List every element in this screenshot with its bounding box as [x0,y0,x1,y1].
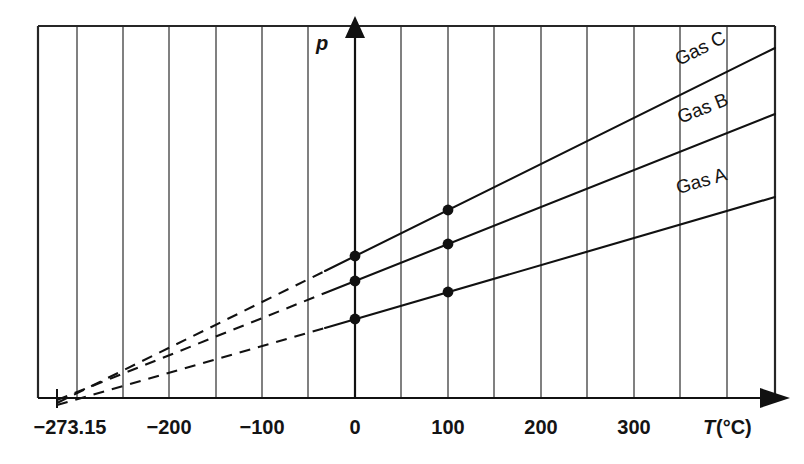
x-axis-title-unit: (°C) [716,416,752,438]
x-tick-labels: −273.15 −200 −100 0 100 200 300 [34,416,651,438]
x-tick-label-1: −200 [146,416,191,438]
y-axis-title: p [315,32,328,54]
x-tick-label-2: −100 [239,416,284,438]
datapoint-gas-b-0 [350,276,361,287]
x-tick-label-5: 200 [524,416,557,438]
x-tick-label-3: 0 [349,416,360,438]
x-tick-label-4: 100 [431,416,464,438]
plot-background [38,26,775,398]
datapoint-gas-a-0 [350,314,361,325]
datapoint-gas-a-100 [443,287,454,298]
x-axis-title: T (°C) [703,416,752,438]
chart-canvas: Gas C Gas B Gas A p T (°C) −273.15 −200 … [0,0,804,464]
datapoint-gas-c-100 [443,205,454,216]
x-tick-label-6: 300 [617,416,650,438]
datapoint-gas-c-0 [350,251,361,262]
pressure-temperature-chart: Gas C Gas B Gas A p T (°C) −273.15 −200 … [0,0,804,464]
x-axis-title-symbol: T [703,416,717,438]
datapoint-gas-b-100 [443,239,454,250]
x-tick-label-0: −273.15 [34,416,107,438]
